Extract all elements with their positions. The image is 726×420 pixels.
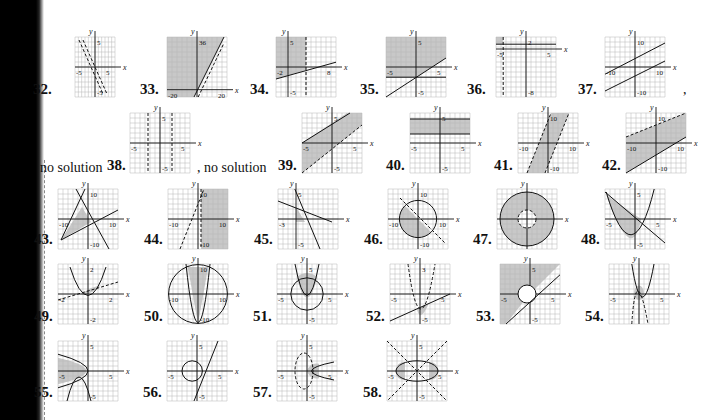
answer-note: no solution: [40, 160, 103, 176]
svg-text:y: y: [632, 254, 637, 263]
inequality-graph: xy-555-5: [410, 113, 470, 173]
problem-number: 45.: [254, 231, 273, 248]
svg-text:5: 5: [109, 373, 113, 381]
svg-text:5: 5: [328, 296, 332, 304]
svg-text:-8: -8: [528, 89, 534, 97]
svg-text:10: 10: [90, 191, 98, 199]
svg-text:x: x: [672, 63, 677, 72]
svg-text:5: 5: [437, 69, 441, 77]
problem-number: 48.: [581, 231, 600, 248]
problem-number: 46.: [364, 231, 383, 248]
inequality-graph: xy-555-5: [130, 113, 190, 173]
svg-text:y: y: [190, 27, 195, 36]
svg-text:y: y: [300, 331, 305, 340]
svg-text:x: x: [343, 63, 348, 72]
svg-text:x: x: [125, 367, 130, 376]
inequality-graph: xy-553-5: [390, 264, 450, 324]
svg-text:-10: -10: [420, 241, 430, 249]
svg-text:x: x: [345, 215, 350, 224]
page-binding-edge: [36, 0, 44, 420]
svg-text:-5: -5: [411, 145, 417, 153]
svg-text:5: 5: [656, 221, 660, 229]
svg-text:-10: -10: [519, 145, 529, 153]
inequality-graph: xy-101010-10: [168, 264, 228, 324]
svg-text:x: x: [676, 290, 681, 299]
svg-text:-2: -2: [59, 296, 65, 304]
svg-text:-5: -5: [419, 393, 425, 401]
svg-text:10: 10: [439, 221, 447, 229]
svg-text:-5: -5: [59, 373, 65, 381]
svg-text:x: x: [344, 367, 349, 376]
svg-text:-5: -5: [298, 241, 304, 249]
svg-text:x: x: [125, 215, 130, 224]
problem-number: 44.: [144, 231, 163, 248]
svg-text:-5: -5: [391, 296, 397, 304]
svg-text:5: 5: [660, 296, 664, 304]
svg-text:y: y: [523, 254, 528, 263]
problem-number: 50.: [144, 308, 163, 325]
problem-number: 42.: [602, 157, 621, 174]
problem-number: 56.: [143, 384, 162, 401]
inequality-graph: xy-101010-10: [626, 113, 686, 173]
svg-text:5: 5: [290, 39, 294, 47]
answer-note: ,: [683, 82, 687, 98]
problem-number: 33.: [140, 81, 159, 98]
inequality-graph: xy-555-5: [302, 113, 362, 173]
svg-text:-10: -10: [389, 221, 399, 229]
svg-text:x: x: [125, 290, 130, 299]
svg-text:5: 5: [461, 145, 465, 153]
svg-text:x: x: [235, 215, 240, 224]
svg-text:20: 20: [218, 92, 226, 100]
problem-number: 40.: [386, 157, 405, 174]
svg-text:y: y: [190, 331, 195, 340]
svg-text:x: x: [564, 215, 569, 224]
svg-text:-5: -5: [309, 393, 315, 401]
svg-text:x: x: [563, 45, 568, 54]
svg-text:y: y: [81, 179, 86, 188]
svg-text:2: 2: [90, 266, 94, 274]
svg-text:-5: -5: [76, 69, 82, 77]
svg-text:x: x: [693, 139, 698, 148]
svg-text:5: 5: [218, 373, 222, 381]
problem-number: 36.: [467, 81, 486, 98]
svg-text:-5: -5: [168, 373, 174, 381]
svg-text:10: 10: [420, 191, 428, 199]
inequality-graph: xy-101010-10: [388, 189, 448, 249]
svg-text:-2: -2: [90, 316, 96, 324]
problem-number: 57.: [253, 384, 272, 401]
svg-text:5: 5: [181, 145, 185, 153]
problem-number: 35.: [360, 81, 379, 98]
svg-text:-5: -5: [303, 145, 309, 153]
problem-number: 43.: [34, 231, 53, 248]
inequality-graph: xy-555-5: [386, 37, 446, 97]
problem-number: 49.: [34, 308, 53, 325]
svg-text:5: 5: [637, 191, 641, 199]
inequality-graph: xy-555-5: [605, 189, 665, 249]
svg-text:x: x: [477, 139, 482, 148]
problem-number: 32.: [33, 81, 52, 98]
svg-text:10: 10: [109, 221, 117, 229]
svg-text:-5: -5: [162, 165, 168, 173]
problem-number: 39.: [278, 157, 297, 174]
problem-number: 55.: [34, 384, 53, 401]
problem-number: 58.: [363, 384, 382, 401]
svg-text:y: y: [628, 27, 633, 36]
inequality-graph: xy-101010-10: [518, 113, 578, 173]
svg-text:-10: -10: [59, 221, 69, 229]
problem-number: 47.: [473, 231, 492, 248]
svg-text:y: y: [409, 27, 414, 36]
svg-text:5: 5: [551, 296, 555, 304]
problem-number: 51.: [253, 308, 272, 325]
svg-text:-3: -3: [279, 221, 285, 229]
svg-text:x: x: [234, 86, 239, 95]
svg-text:x: x: [454, 367, 459, 376]
svg-text:y: y: [519, 27, 524, 36]
svg-text:5: 5: [418, 39, 422, 47]
svg-text:-5: -5: [334, 165, 340, 173]
svg-text:3: 3: [422, 266, 426, 274]
svg-text:-5: -5: [199, 393, 205, 401]
svg-text:y: y: [191, 254, 196, 263]
svg-text:5: 5: [532, 266, 536, 274]
svg-text:5: 5: [419, 343, 423, 351]
svg-text:x: x: [455, 215, 460, 224]
